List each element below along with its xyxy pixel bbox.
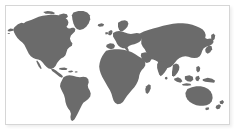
screenshot-root — [0, 0, 239, 139]
world-map-panel — [5, 5, 230, 125]
world-map-graphic — [6, 6, 229, 124]
